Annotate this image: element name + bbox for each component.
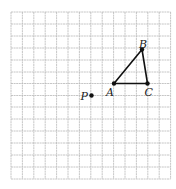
triangle-outline: [114, 50, 148, 84]
point-c-label: C: [145, 86, 154, 99]
point-a-label: A: [105, 86, 114, 99]
point-p-dot: [89, 93, 93, 97]
point-b-label: B: [138, 38, 147, 51]
point-p-label: P: [80, 90, 89, 103]
grid-figure: ABCP: [0, 0, 176, 189]
triangle-abc: [114, 50, 148, 84]
